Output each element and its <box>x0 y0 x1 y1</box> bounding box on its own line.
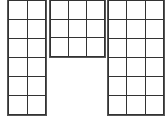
grid-cell <box>146 39 164 58</box>
middle-grid <box>50 0 105 57</box>
right-grid <box>108 0 164 115</box>
grid-cell <box>9 77 28 96</box>
grid-cell <box>127 96 145 115</box>
grid-cell <box>9 58 28 77</box>
grid-cell <box>9 1 28 20</box>
grid-cell <box>51 20 69 39</box>
grid-cell <box>109 77 127 96</box>
grid-cell <box>146 77 164 96</box>
grid-cell <box>28 20 47 39</box>
grid-cell <box>69 20 87 39</box>
grid-cell <box>146 1 164 20</box>
grid-cell <box>69 38 87 57</box>
diagram-canvas <box>0 0 165 121</box>
grid-cell <box>87 38 105 57</box>
grid-cell <box>109 20 127 39</box>
grid-cell <box>9 96 28 115</box>
grid-cell <box>9 20 28 39</box>
grid-cell <box>51 38 69 57</box>
grid-cell <box>109 58 127 77</box>
grid-cell <box>146 58 164 77</box>
grid-cell <box>127 58 145 77</box>
grid-cell <box>127 77 145 96</box>
grid-cell <box>127 39 145 58</box>
grid-cell <box>146 20 164 39</box>
grid-cell <box>87 20 105 39</box>
grid-cell <box>109 1 127 20</box>
grid-cell <box>69 1 87 20</box>
grid-cell <box>109 96 127 115</box>
grid-cell <box>109 39 127 58</box>
grid-cell <box>28 39 47 58</box>
grid-cell <box>28 96 47 115</box>
grid-cell <box>127 20 145 39</box>
left-grid <box>8 0 46 115</box>
grid-cell <box>28 58 47 77</box>
grid-cell <box>28 1 47 20</box>
grid-cell <box>9 39 28 58</box>
grid-cell <box>51 1 69 20</box>
grid-cell <box>87 1 105 20</box>
grid-cell <box>127 1 145 20</box>
grid-cell <box>28 77 47 96</box>
grid-cell <box>146 96 164 115</box>
